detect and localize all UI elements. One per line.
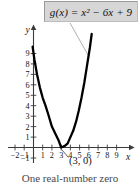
figure-caption: One real-number zero	[0, 172, 140, 184]
svg-text:8: 8	[26, 60, 30, 69]
svg-text:9: 9	[26, 49, 30, 58]
svg-text:2: 2	[26, 123, 30, 132]
vertex-point-label: (3, 0)	[69, 155, 92, 166]
svg-text:6: 6	[26, 81, 30, 90]
graph-figure: −2 −1 1 2 3 4 5 6 7 8 9 −1 1 2 3 4 5 6 7…	[0, 0, 140, 190]
svg-text:2: 2	[50, 151, 54, 160]
svg-text:8: 8	[105, 151, 109, 160]
equation-text: g(x) = x² − 6x + 9	[50, 6, 132, 18]
svg-text:7: 7	[26, 70, 30, 79]
svg-text:−1: −1	[21, 154, 30, 163]
svg-text:3: 3	[59, 151, 63, 160]
svg-text:3: 3	[26, 112, 30, 121]
svg-text:7: 7	[96, 151, 100, 160]
y-axis-label: y	[24, 25, 30, 35]
x-axis-label: x	[125, 152, 131, 162]
svg-text:5: 5	[26, 91, 30, 100]
svg-text:9: 9	[115, 151, 119, 160]
parabola-curve	[33, 34, 92, 148]
svg-text:1: 1	[41, 151, 45, 160]
svg-text:−2: −2	[11, 151, 20, 160]
equation-label-box: g(x) = x² − 6x + 9	[44, 1, 138, 22]
y-tick-labels: −1 1 2 3 4 5 6 7 8 9	[21, 49, 30, 163]
svg-text:1: 1	[26, 133, 30, 142]
svg-text:4: 4	[26, 102, 30, 111]
leader-line	[70, 23, 88, 55]
